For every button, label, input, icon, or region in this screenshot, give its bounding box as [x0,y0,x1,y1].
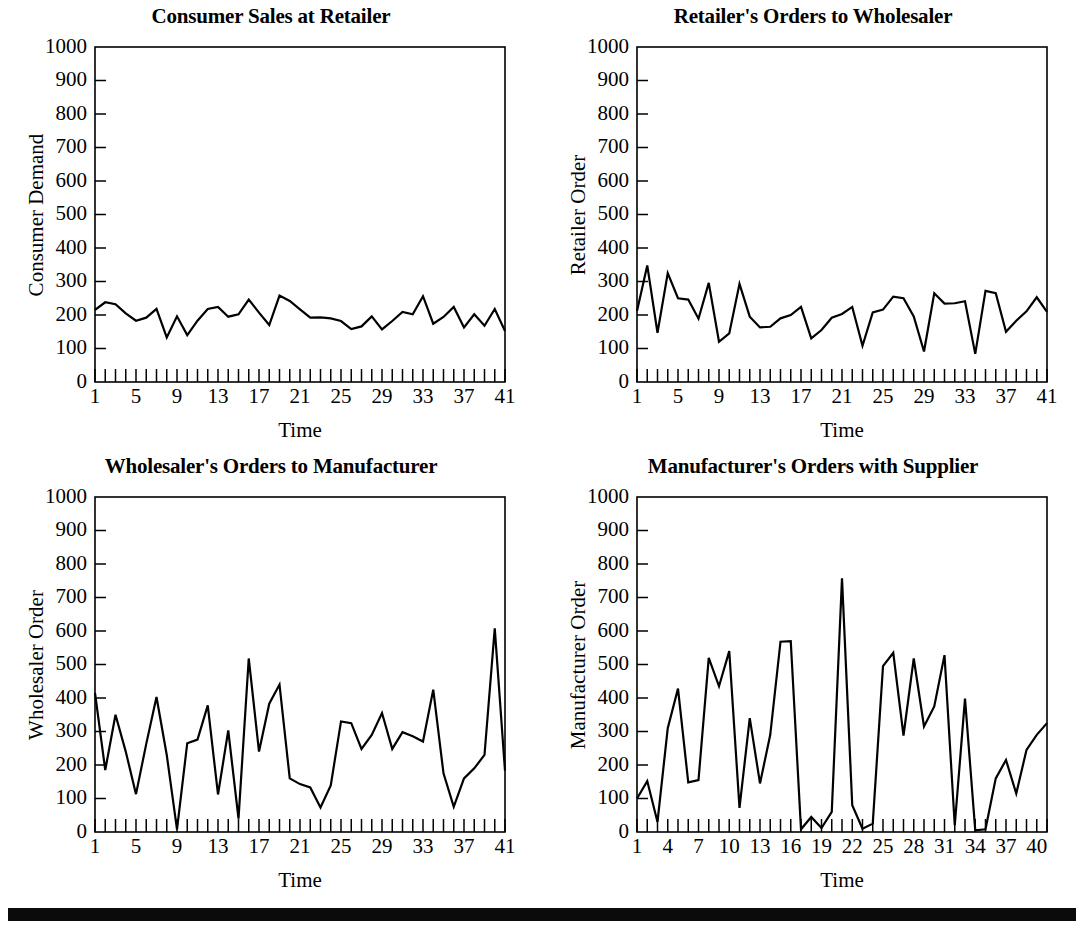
x-tick-label: 17 [249,384,270,408]
x-tick-label: 7 [693,834,704,858]
y-tick-label: 400 [598,685,630,709]
x-tick-label: 29 [914,384,935,408]
y-tick-label: 700 [56,584,88,608]
plot-area: 0100200300400500600700800900100015913172… [0,450,542,900]
y-tick-label: 800 [598,551,630,575]
y-tick-label: 1000 [45,34,87,58]
x-tick-label: 21 [290,384,311,408]
x-tick-label: 1 [90,834,101,858]
plot-area: 0100200300400500600700800900100015913172… [542,0,1084,450]
y-tick-label: 400 [56,235,88,259]
y-tick-label: 700 [56,134,88,158]
y-tick-label: 100 [598,335,630,359]
data-series-line [637,578,1047,830]
y-tick-label: 500 [56,201,88,225]
y-tick-label: 500 [598,201,630,225]
x-tick-label: 29 [372,834,393,858]
y-tick-label: 200 [598,302,630,326]
y-tick-label: 0 [619,819,630,843]
plot-frame [637,497,1047,832]
x-tick-label: 17 [249,834,270,858]
x-tick-label: 4 [663,834,674,858]
y-tick-label: 800 [56,551,88,575]
x-tick-label: 33 [955,384,976,408]
x-tick-label: 21 [832,384,853,408]
y-tick-label: 900 [56,67,88,91]
x-tick-label: 41 [495,384,516,408]
y-tick-label: 1000 [587,484,629,508]
x-tick-label: 1 [632,384,643,408]
chart-panel-manufacturer-orders: Manufacturer's Orders with Supplier Manu… [542,450,1084,900]
y-tick-label: 900 [56,517,88,541]
y-tick-label: 0 [619,369,630,393]
data-series-line [95,296,505,338]
x-tick-label: 9 [714,384,725,408]
y-tick-label: 100 [56,335,88,359]
x-tick-label: 41 [495,834,516,858]
x-tick-label: 17 [791,384,812,408]
y-tick-label: 0 [77,369,88,393]
y-tick-label: 200 [598,752,630,776]
plot-frame [95,497,505,832]
y-tick-label: 600 [56,618,88,642]
plot-area: 0100200300400500600700800900100014710131… [542,450,1084,900]
x-tick-label: 34 [965,834,987,858]
y-tick-label: 400 [598,235,630,259]
x-tick-label: 25 [873,384,894,408]
x-tick-label: 33 [413,384,434,408]
x-tick-label: 13 [750,834,771,858]
y-tick-label: 600 [598,168,630,192]
y-tick-label: 1000 [587,34,629,58]
x-tick-label: 13 [208,834,229,858]
x-tick-label: 28 [903,834,924,858]
y-tick-label: 100 [598,785,630,809]
x-tick-label: 33 [413,834,434,858]
x-tick-label: 1 [90,384,101,408]
y-tick-label: 300 [598,268,630,292]
y-tick-label: 900 [598,517,630,541]
x-tick-label: 37 [996,384,1017,408]
x-tick-label: 25 [331,384,352,408]
x-tick-label: 5 [131,834,142,858]
x-tick-label: 40 [1026,834,1047,858]
chart-panel-retailer-orders: Retailer's Orders to Wholesaler Retailer… [542,0,1084,450]
x-tick-label: 41 [1037,384,1058,408]
y-tick-label: 800 [598,101,630,125]
data-series-line [637,265,1047,353]
x-tick-label: 5 [673,384,684,408]
x-tick-label: 16 [780,834,801,858]
y-tick-label: 200 [56,752,88,776]
y-tick-label: 300 [56,718,88,742]
y-tick-label: 1000 [45,484,87,508]
figure-grid: Consumer Sales at Retailer Consumer Dema… [0,0,1084,900]
x-tick-label: 5 [131,384,142,408]
x-tick-label: 25 [873,834,894,858]
y-tick-label: 100 [56,785,88,809]
x-tick-label: 22 [842,834,863,858]
x-tick-label: 31 [934,834,955,858]
plot-frame [95,47,505,382]
plot-frame [637,47,1047,382]
y-tick-label: 500 [56,651,88,675]
y-tick-label: 700 [598,134,630,158]
y-tick-label: 700 [598,584,630,608]
y-tick-label: 300 [56,268,88,292]
x-tick-label: 9 [172,384,183,408]
x-tick-label: 37 [454,384,475,408]
y-tick-label: 600 [56,168,88,192]
y-tick-label: 500 [598,651,630,675]
x-tick-label: 9 [172,834,183,858]
x-tick-label: 21 [290,834,311,858]
x-tick-label: 13 [750,384,771,408]
x-tick-label: 37 [996,834,1017,858]
x-tick-label: 19 [811,834,832,858]
y-tick-label: 300 [598,718,630,742]
chart-panel-consumer-sales: Consumer Sales at Retailer Consumer Dema… [0,0,542,450]
y-tick-label: 200 [56,302,88,326]
x-tick-label: 13 [208,384,229,408]
y-tick-label: 800 [56,101,88,125]
y-tick-label: 0 [77,819,88,843]
x-tick-label: 29 [372,384,393,408]
y-tick-label: 400 [56,685,88,709]
chart-panel-wholesaler-orders: Wholesaler's Orders to Manufacturer Whol… [0,450,542,900]
